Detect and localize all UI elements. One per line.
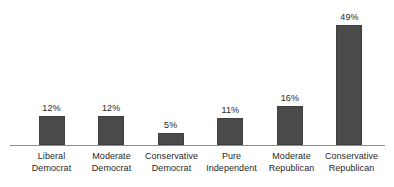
category-label-conservative-democrat: Conservative Democrat <box>142 150 201 174</box>
bar-conservative-republican <box>336 25 362 145</box>
bar-slot-pure-independent: 11% <box>201 0 260 145</box>
bar-slot-moderate-republican: 16% <box>260 0 319 145</box>
bar-value-label: 49% <box>340 12 358 23</box>
bar-moderate-republican <box>277 106 303 145</box>
category-label-line2: Republican <box>262 162 321 174</box>
bar-value-label: 5% <box>164 120 177 131</box>
bar-value-label: 12% <box>42 103 60 114</box>
bar-slot-moderate-democrat: 12% <box>82 0 141 145</box>
bar-slot-liberal-democrat: 12% <box>22 0 81 145</box>
plot-area: 12% 12% 5% 11% 16% 49% <box>10 0 385 146</box>
category-label-line2: Republican <box>322 162 381 174</box>
bar-moderate-democrat <box>98 116 124 145</box>
category-label-row: Liberal Democrat Moderate Democrat Conse… <box>22 150 381 174</box>
category-label-moderate-democrat: Moderate Democrat <box>82 150 141 174</box>
category-label-line1: Moderate <box>82 150 141 162</box>
bar-liberal-democrat <box>39 116 65 145</box>
bar-slot-conservative-democrat: 5% <box>141 0 200 145</box>
bar-value-label: 16% <box>281 93 299 104</box>
bar-pure-independent <box>217 118 243 145</box>
bar-chart: 12% 12% 5% 11% 16% 49% <box>0 0 394 187</box>
category-label-line1: Moderate <box>262 150 321 162</box>
category-label-line2: Democrat <box>22 162 81 174</box>
category-label-pure-independent: Pure Independent <box>202 150 261 174</box>
bar-value-label: 12% <box>102 103 120 114</box>
category-label-line2: Democrat <box>82 162 141 174</box>
category-label-line1: Conservative <box>322 150 381 162</box>
category-label-line1: Pure <box>202 150 261 162</box>
category-label-liberal-democrat: Liberal Democrat <box>22 150 81 174</box>
category-label-line1: Conservative <box>142 150 201 162</box>
bar-group: 12% 12% 5% 11% 16% 49% <box>22 0 379 145</box>
bar-slot-conservative-republican: 49% <box>320 0 379 145</box>
category-label-line1: Liberal <box>22 150 81 162</box>
bar-conservative-democrat <box>158 133 184 145</box>
category-label-moderate-republican: Moderate Republican <box>262 150 321 174</box>
category-label-line2: Independent <box>202 162 261 174</box>
category-label-conservative-republican: Conservative Republican <box>322 150 381 174</box>
category-label-line2: Democrat <box>142 162 201 174</box>
x-axis-line <box>10 145 385 146</box>
bar-value-label: 11% <box>221 105 239 116</box>
